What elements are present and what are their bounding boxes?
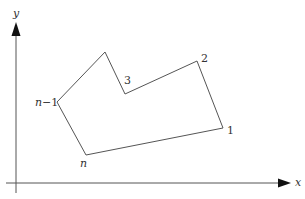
vertex-label-n: n — [80, 157, 87, 170]
polygon-shape — [57, 52, 223, 155]
vertex-label-n-minus-1-suffix: −1 — [42, 96, 58, 109]
vertex-label-2: 2 — [201, 52, 208, 65]
y-axis-arrow-icon — [12, 22, 21, 36]
y-axis-label: y — [12, 7, 20, 20]
vertex-label-n-minus-1-n: n — [35, 96, 42, 109]
vertex-label-n-minus-1: n−1 — [35, 96, 58, 109]
x-axis-arrow-icon — [278, 179, 291, 188]
vertex-label-1: 1 — [227, 124, 234, 137]
vertex-label-3: 3 — [124, 74, 131, 87]
x-axis-label: x — [295, 176, 302, 189]
polygon-diagram: y x 1 2 3 n−1 n — [0, 0, 305, 199]
